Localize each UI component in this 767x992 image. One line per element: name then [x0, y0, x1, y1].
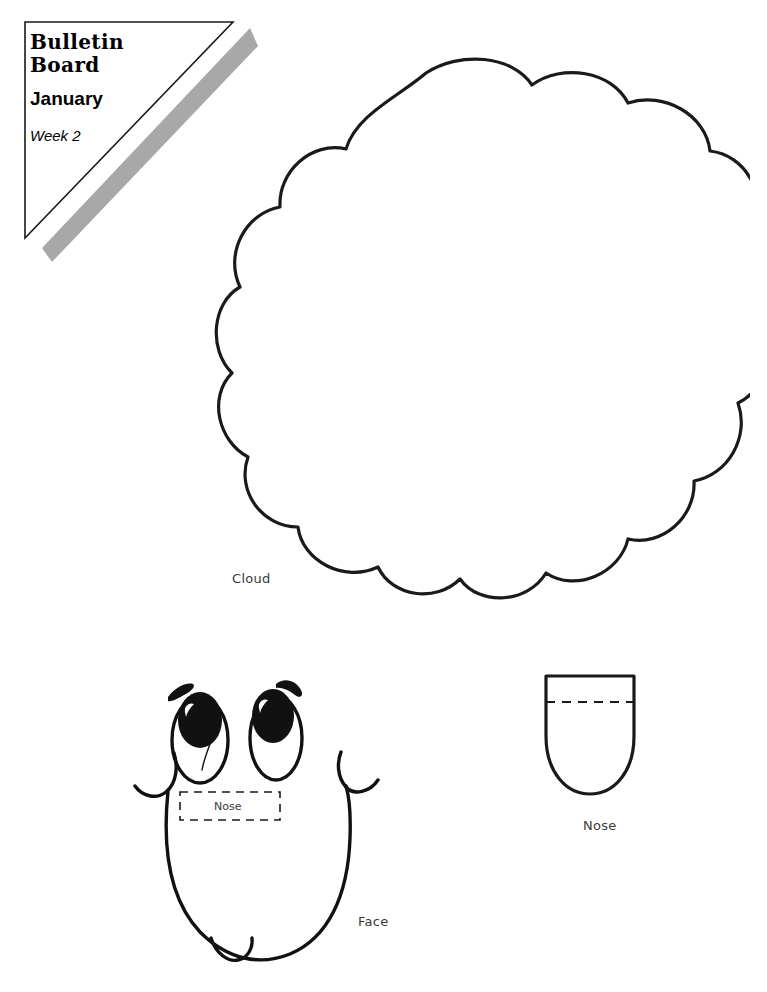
cloud-label: Cloud — [232, 571, 271, 586]
nose-placeholder-label: Nose — [214, 800, 241, 813]
worksheet-page: Bulletin Board January Week 2 Cloud — [0, 0, 767, 992]
banner-title-line1: Bulletin — [30, 30, 124, 54]
cloud-cutout-shape — [150, 45, 750, 625]
cloud-outline — [216, 59, 750, 598]
left-cheek-curve — [135, 753, 176, 796]
face-label: Face — [358, 914, 389, 929]
banner-title-line2: Board — [30, 53, 100, 77]
nose-cutout-shape — [520, 660, 660, 810]
banner-week: Week 2 — [30, 127, 81, 144]
nose-label: Nose — [583, 818, 617, 833]
banner-month: January — [30, 88, 103, 110]
nose-outline — [546, 676, 634, 794]
chin-tongue-detail — [211, 938, 252, 960]
right-pupil-icon — [252, 689, 294, 743]
left-pupil-icon — [178, 692, 222, 748]
